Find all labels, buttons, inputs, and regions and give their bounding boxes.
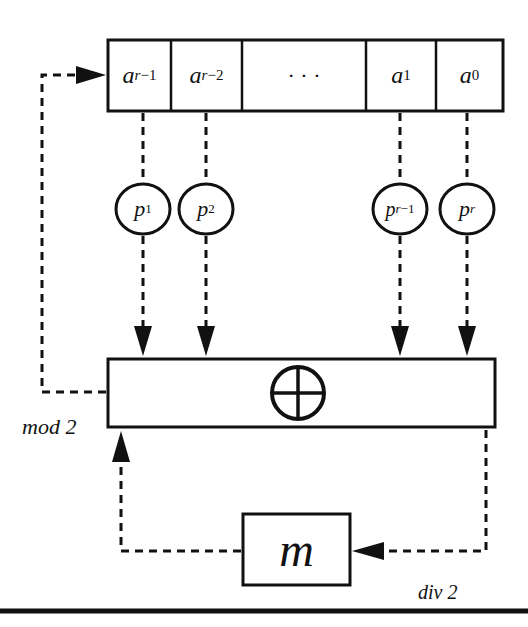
coef-p1: p1 (116, 184, 170, 234)
feedback-mod2-path (42, 75, 106, 392)
coef-base: p (459, 196, 470, 222)
coef-p2: p2 (179, 184, 233, 234)
carry-arrowhead-up (112, 431, 130, 462)
cell-base: a (123, 62, 135, 89)
coef-sub: −1 (401, 201, 415, 216)
tap-lines-upper (143, 113, 467, 182)
memory-label: m (243, 514, 350, 585)
cell-base: a (391, 62, 403, 89)
coef-base: p (197, 196, 208, 222)
coef-base: p (386, 198, 396, 221)
arrowheads-down (134, 326, 476, 356)
ellipsis-text: · · · (288, 63, 321, 89)
mod2-label: mod 2 (22, 416, 76, 438)
cell-sub-rest: 0 (472, 67, 480, 83)
cell-a-r-minus-2: ar−2 (171, 40, 242, 111)
cell-base: a (190, 62, 202, 89)
cell-sub-rest: 1 (403, 67, 411, 83)
cell-a-0: a0 (436, 40, 503, 111)
feedback-arrowhead (76, 66, 106, 84)
cell-base: a (460, 62, 472, 89)
cell-ellipsis: · · · (242, 40, 366, 111)
coef-sub: 1 (145, 201, 152, 216)
coef-sub: 2 (208, 201, 215, 216)
cell-sub-rest: −2 (207, 67, 223, 83)
carry-arrowhead-left (352, 542, 384, 560)
cell-a-r-minus-1: ar−1 (108, 40, 171, 111)
coefficient-circles (116, 184, 494, 234)
cell-sub-rest: −1 (140, 67, 156, 83)
coef-p-r: pr (440, 184, 494, 234)
tap-arrows-lower (143, 236, 467, 330)
coef-p-r-minus-1: pr−1 (373, 184, 427, 234)
xor-adder-box (108, 359, 495, 427)
div2-label: div 2 (418, 582, 457, 602)
coef-base: p (134, 196, 145, 222)
coef-sub-var: r (470, 201, 475, 216)
cell-a-1: a1 (366, 40, 436, 111)
